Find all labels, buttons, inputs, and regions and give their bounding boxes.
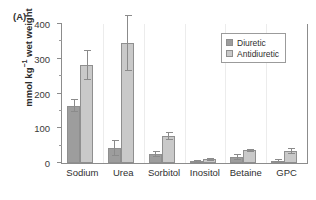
error-bar-cap-bottom xyxy=(247,151,254,152)
legend: DiureticAntidiuretic xyxy=(221,33,286,63)
error-bar-cap-top xyxy=(71,99,78,100)
y-axis-tick-label: 400 xyxy=(34,19,50,30)
bar-group xyxy=(144,24,185,163)
error-bar-cap-top xyxy=(234,154,241,155)
y-axis-title-post: wet weight xyxy=(23,8,34,59)
error-bar-cap-top xyxy=(166,132,173,133)
error-bar xyxy=(278,160,279,162)
error-bar-cap-bottom xyxy=(275,161,282,162)
bar[interactable] xyxy=(243,150,256,163)
error-bar xyxy=(250,149,251,151)
error-bar xyxy=(168,132,169,140)
error-bar xyxy=(87,51,88,79)
x-axis-tick-label: Sorbitol xyxy=(148,167,180,178)
error-bar-cap-bottom xyxy=(234,159,241,160)
error-bar xyxy=(196,161,197,162)
error-bar xyxy=(114,140,115,155)
legend-swatch xyxy=(226,50,233,57)
x-axis-tick-label: Betaine xyxy=(230,167,262,178)
error-bar-cap-bottom xyxy=(288,153,295,154)
error-bar-cap-bottom xyxy=(112,155,119,156)
legend-item[interactable]: Antidiuretic xyxy=(226,48,279,59)
error-bar xyxy=(155,152,156,157)
bar-group xyxy=(62,24,103,163)
bar-group xyxy=(103,24,144,163)
y-axis-tick-label: 0 xyxy=(45,158,50,169)
error-bar-cap-top xyxy=(84,50,91,51)
legend-label: Diuretic xyxy=(237,38,266,48)
legend-item[interactable]: Diuretic xyxy=(226,37,279,48)
legend-label: Antidiuretic xyxy=(237,49,279,59)
error-bar-cap-bottom xyxy=(153,156,160,157)
error-bar-cap-bottom xyxy=(166,139,173,140)
error-bar-cap-bottom xyxy=(194,162,201,163)
y-axis-title-superscript: −1 xyxy=(21,60,28,68)
y-axis-tick-label: 200 xyxy=(34,88,50,99)
error-bar xyxy=(209,158,210,160)
error-bar-cap-top xyxy=(288,148,295,149)
error-bar-cap-bottom xyxy=(125,70,132,71)
x-axis-tick-label: Inositol xyxy=(190,167,220,178)
error-bar-cap-bottom xyxy=(207,160,214,161)
legend-swatch xyxy=(226,39,233,46)
error-bar-cap-top xyxy=(207,158,214,159)
error-bar-cap-top xyxy=(247,149,254,150)
error-bar-cap-top xyxy=(275,159,282,160)
x-axis-tick-label: GPC xyxy=(276,167,297,178)
error-bar-cap-top xyxy=(153,151,160,152)
y-axis-tick-label: 100 xyxy=(34,123,50,134)
y-axis-tick-label: 300 xyxy=(34,53,50,64)
error-bar-cap-bottom xyxy=(84,79,91,80)
error-bar xyxy=(237,155,238,160)
error-bar-cap-top xyxy=(125,15,132,16)
y-axis-title-pre: mmol kg xyxy=(23,68,34,107)
error-bar-cap-top xyxy=(112,140,119,141)
x-axis-tick-label: Urea xyxy=(113,167,134,178)
bar[interactable] xyxy=(67,106,80,163)
error-bar xyxy=(291,148,292,154)
x-axis-tick-label: Sodium xyxy=(66,167,98,178)
figure-panel-a: (A) mmol kg−1 wet weight 0100200300400 S… xyxy=(0,0,316,200)
error-bar-cap-bottom xyxy=(71,111,78,112)
y-axis-title: mmol kg−1 wet weight xyxy=(23,0,34,133)
error-bar xyxy=(74,99,75,112)
bar-group xyxy=(185,24,226,163)
error-bar xyxy=(127,15,128,70)
